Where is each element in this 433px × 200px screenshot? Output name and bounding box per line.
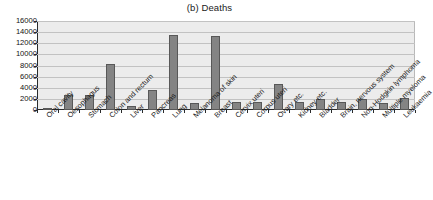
gridline (37, 43, 415, 44)
y-axis: 1600014000120001000080006000400020000 (0, 21, 37, 110)
x-axis-tick-mark (352, 110, 353, 113)
x-axis-tick-mark (268, 110, 269, 113)
x-axis-tick-mark (205, 110, 206, 113)
x-axis: Oral cavityOesophagusStomachColon and re… (37, 110, 415, 200)
gridline (37, 66, 415, 67)
x-axis-tick-mark (121, 110, 122, 113)
x-axis-tick-mark (163, 110, 164, 113)
x-axis-tick-mark (331, 110, 332, 113)
y-axis-tick-label: 12000 (3, 39, 37, 47)
x-axis-tick-mark (310, 110, 311, 113)
x-axis-tick-mark (142, 110, 143, 113)
gridline (37, 21, 415, 22)
x-axis-tick-mark (58, 110, 59, 113)
x-axis-tick-mark (226, 110, 227, 113)
x-axis-tick-mark (247, 110, 248, 113)
y-axis-tick-label: 10000 (3, 50, 37, 58)
x-axis-tick-mark (415, 110, 416, 113)
x-axis-tick-mark (373, 110, 374, 113)
x-axis-tick-mark (394, 110, 395, 113)
y-axis-tick-label: 6000 (3, 73, 37, 81)
x-axis-tick-mark (37, 110, 38, 113)
x-axis-tick-mark (184, 110, 185, 113)
y-axis-tick-label: 4000 (3, 84, 37, 92)
x-axis-tick-mark (79, 110, 80, 113)
y-axis-tick-label: 0 (3, 106, 37, 114)
y-axis-tick-label: 14000 (3, 28, 37, 36)
y-axis-tick-label: 2000 (3, 95, 37, 103)
x-axis-tick-mark (289, 110, 290, 113)
chart-title: (b) Deaths (0, 2, 419, 13)
y-axis-tick-label: 16000 (3, 17, 37, 25)
x-axis-tick-mark (100, 110, 101, 113)
gridline (37, 32, 415, 33)
y-axis-tick-label: 8000 (3, 62, 37, 70)
gridline (37, 54, 415, 55)
